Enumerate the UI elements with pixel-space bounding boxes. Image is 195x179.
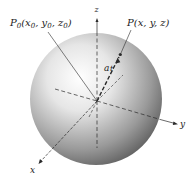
ray-label-a: a — [104, 63, 109, 73]
point-p-dot — [119, 53, 122, 56]
y-axis-label: y — [179, 119, 186, 129]
z-axis-label: z — [94, 5, 100, 14]
y-arrowhead-icon — [173, 122, 178, 125]
y-axis-visible — [162, 120, 175, 124]
p0-label: P0(x0, y0, z0) — [9, 17, 72, 30]
sphere-diagram: P0(x0, y0, z0) P(x, y, z) z y x a t — [0, 0, 195, 179]
z-arrowhead-icon — [96, 18, 99, 22]
sphere — [30, 33, 162, 165]
x-arrowhead-icon — [39, 159, 43, 164]
x-axis-label: x — [30, 165, 35, 175]
p-label: P(x, y, z) — [126, 17, 170, 28]
